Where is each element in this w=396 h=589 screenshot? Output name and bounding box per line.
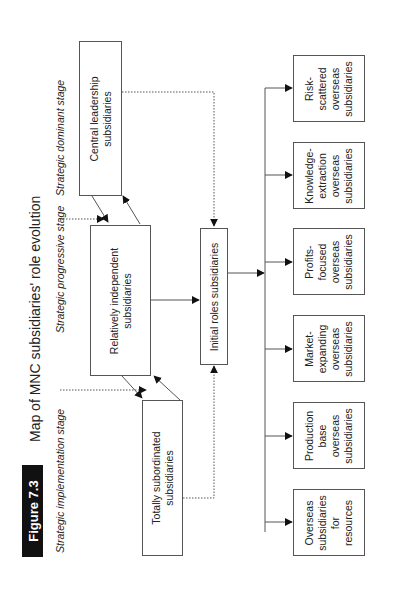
outcome-profits-focused: Profits- focused overseas subsidiaries (293, 228, 365, 295)
node-central-leadership-label: Central leadership subsidiaries (88, 76, 114, 161)
node-relatively-independent: Relatively independent subsidiaries (90, 225, 151, 376)
node-totally-subordinated: Totally subordinated subsidiaries (142, 400, 183, 556)
node-relatively-independent-label: Relatively independent subsidiaries (108, 247, 134, 353)
node-totally-subordinated-label: Totally subordinated subsidiaries (150, 431, 176, 524)
outcome-resources: Overseas subsidiaries for resources (293, 489, 365, 556)
outcome-market-expanding: Market- expanding overseas subsidiaries (293, 315, 365, 382)
outcome-knowledge-extraction: Knowledge- extraction overseas subsidiar… (293, 142, 365, 209)
outcome-knowledge-extraction-label: Knowledge- extraction overseas subsidiar… (303, 148, 355, 203)
outcome-profits-focused-label: Profits- focused overseas subsidiaries (303, 234, 355, 289)
outcome-market-expanding-label: Market- expanding overseas subsidiaries (303, 321, 355, 376)
node-central-leadership: Central leadership subsidiaries (79, 41, 122, 196)
outcome-risk-scattered: Risk- scattered overseas subsidiaries (293, 55, 365, 122)
node-initial-roles-label: Initial roles subsidiaries (208, 242, 221, 351)
outcome-production-base-label: Production base overseas subsidiaries (303, 408, 355, 463)
outcome-resources-label: Overseas subsidiaries for resources (303, 495, 355, 550)
outcome-production-base: Production base overseas subsidiaries (293, 402, 365, 469)
outcome-risk-scattered-label: Risk- scattered overseas subsidiaries (303, 61, 355, 116)
node-initial-roles: Initial roles subsidiaries (200, 228, 228, 365)
